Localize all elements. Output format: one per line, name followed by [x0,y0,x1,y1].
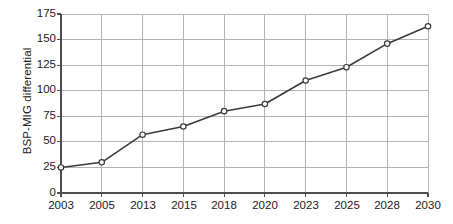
x-tick-label-2030: 2030 [405,199,451,211]
y-tick-label-100: 100 [30,84,56,96]
y-axis-tick-labels: 175 150 125 100 75 50 25 0 [28,0,56,224]
data-point-2023 [303,78,308,83]
plot-area [0,0,453,224]
x-tick-label-2018: 2018 [201,199,247,211]
y-tick-label-0: 0 [30,187,56,199]
data-point-2030 [425,24,430,29]
data-point-2015 [181,124,186,129]
y-tick-label-175: 175 [30,8,56,20]
x-tick-label-2023: 2023 [283,199,329,211]
data-point-2005 [99,160,104,165]
data-point-2018 [221,108,226,113]
y-tick-label-25: 25 [30,161,56,173]
chart-container: BSP-MIG differential 175 150 125 100 75 … [0,0,453,224]
data-point-markers [58,24,430,171]
x-tick-label-2003: 2003 [38,199,84,211]
axis-tick-marks [57,14,428,197]
y-tick-label-75: 75 [30,110,56,122]
data-point-2025 [344,64,349,69]
x-tick-label-2020: 2020 [242,199,288,211]
x-axis-tick-labels: 2003 2005 2013 2015 2018 2020 2023 2025 … [0,199,453,215]
x-tick-label-2013: 2013 [120,199,166,211]
data-point-2020 [262,101,267,106]
y-tick-label-150: 150 [30,33,56,45]
data-point-2013 [140,132,145,137]
horizontal-gridlines [61,14,428,167]
x-tick-label-2005: 2005 [79,199,125,211]
y-tick-label-125: 125 [30,59,56,71]
data-point-2028 [385,41,390,46]
data-line-series [61,26,428,167]
axis-lines [61,14,428,193]
data-point-2003 [58,165,63,170]
y-tick-label-50: 50 [30,135,56,147]
x-tick-label-2028: 2028 [364,199,410,211]
